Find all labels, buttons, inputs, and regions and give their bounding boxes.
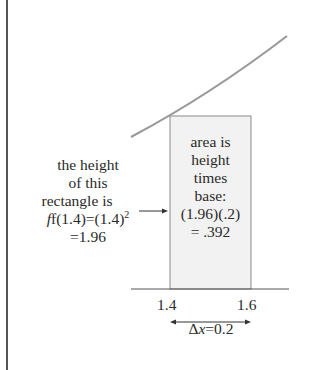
height-annotation-line: of this [28,174,148,192]
height-annotation-line: the height [28,156,148,174]
delta-x-label: Δx=0.2 [170,320,252,338]
delta-value: =0.2 [205,320,233,337]
height-annotation-line: rectangle is [28,192,148,210]
tick-label-1.6: 1.6 [237,296,256,314]
area-annotation-line: (1.96)(.2) [170,205,251,223]
delta-symbol: Δ [189,320,199,337]
tick-label-1.4: 1.4 [157,296,176,314]
area-annotation-line: area is [170,133,251,151]
area-annotation-line: base: [170,187,251,205]
height-annotation: the height of this rectangle is ff(1.4)=… [28,156,148,246]
height-annotation-formula: ff(1.4)=(1.4)2 [28,210,148,228]
area-annotation-line: height [170,151,251,169]
area-annotation: area is height times base: (1.96)(.2) = … [170,133,251,241]
formula-text: f(1.4)=(1.4) [51,210,124,227]
exponent: 2 [124,209,129,220]
area-annotation-line: = .392 [170,223,251,241]
area-annotation-line: times [170,169,251,187]
height-annotation-line: =1.96 [28,228,148,246]
